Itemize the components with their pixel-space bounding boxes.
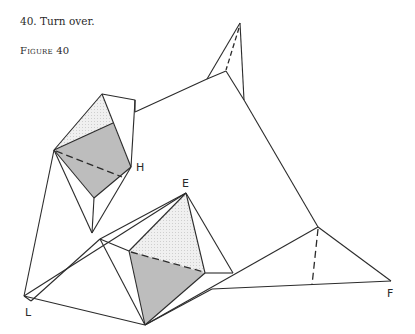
valley-fold-top [226,28,239,70]
point-label-l: L [25,306,32,319]
valley-fold-right [312,229,318,285]
upper-left-flap [24,94,135,296]
point-label-f: F [387,287,393,300]
lower-center-flap [24,193,318,325]
top-point [135,23,318,227]
point-label-e: E [182,177,189,190]
point-label-h: H [136,161,144,174]
origami-diagram: H E L F [0,0,415,334]
